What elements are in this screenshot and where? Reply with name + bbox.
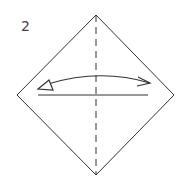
fold-arrow-arc [48,76,150,84]
open-arrowhead-icon [38,80,53,90]
origami-diagram [0,0,187,187]
